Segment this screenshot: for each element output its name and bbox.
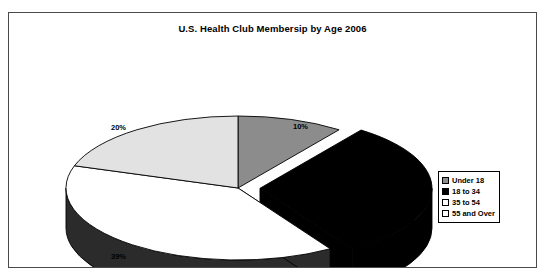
legend-item-under-18[interactable]: Under 18 <box>442 175 495 186</box>
pie-chart: 10% 31% 39% 20% <box>9 13 537 268</box>
legend-label-55-and-over: 55 and Over <box>452 209 495 218</box>
legend-label-18-to-34: 18 to 34 <box>452 187 480 196</box>
legend-swatch-35-to-54 <box>442 199 449 206</box>
slice-label-under-18: 10% <box>293 122 308 131</box>
legend-swatch-under-18 <box>442 177 449 184</box>
legend-item-35-to-54[interactable]: 35 to 54 <box>442 197 495 208</box>
legend-item-55-and-over[interactable]: 55 and Over <box>442 208 495 219</box>
slice-label-55-and-over: 20% <box>111 123 126 132</box>
chart-legend: Under 18 18 to 34 35 to 54 55 and Over <box>438 171 500 223</box>
legend-label-35-to-54: 35 to 54 <box>452 198 480 207</box>
legend-label-under-18: Under 18 <box>452 176 484 185</box>
slice-label-35-to-54: 39% <box>111 252 126 261</box>
legend-swatch-55-and-over <box>442 210 449 217</box>
legend-swatch-18-to-34 <box>442 188 449 195</box>
slice-label-18-to-34: 31% <box>405 220 420 229</box>
chart-frame: U.S. Health Club Membersip by Age 2006 1… <box>8 12 537 268</box>
pie-svg <box>9 13 537 268</box>
legend-item-18-to-34[interactable]: 18 to 34 <box>442 186 495 197</box>
